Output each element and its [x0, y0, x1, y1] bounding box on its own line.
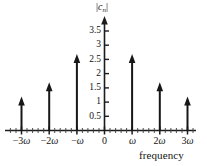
y-tick-label-0-5: 0.5 [76, 112, 101, 122]
y-tick-label-2: 2 [76, 69, 101, 79]
y-tick-label-2-5: 2.5 [76, 55, 101, 65]
stem-plus-3omega [184, 97, 191, 131]
x-tick-label-zero: 0 [89, 136, 120, 146]
x-axis-title: frequency [139, 150, 184, 161]
stem-minus-3omega [18, 97, 25, 131]
y-tick-label-1-5: 1.5 [76, 83, 101, 93]
x-tick-prefix: −2 [41, 135, 52, 146]
y-axis-arrowhead [101, 16, 108, 25]
y-axis-title-n: n [102, 6, 106, 14]
x-tick-symbol: ω [186, 135, 193, 146]
x-tick-label-minus-3omega: −3ω [6, 136, 37, 146]
x-tick-symbol: ω [23, 135, 30, 146]
x-tick-symbol: ω [158, 135, 165, 146]
stem-plus-omega [129, 54, 136, 130]
y-tick-label-3: 3 [76, 40, 101, 50]
x-tick-symbol: ω [129, 135, 136, 146]
x-tick-label-minus-2omega: −2ω [34, 136, 65, 146]
y-tick-label-3-5: 3.5 [76, 26, 101, 36]
x-tick-symbol: ω [51, 135, 58, 146]
y-axis-title: |cn| [96, 2, 108, 12]
x-tick-label-3omega: 3ω [172, 136, 203, 146]
frequency-spectrum-figure: |cn| 3.5 3 2.5 2 1.5 1 0.5 −3ω −2ω −ω 0 … [0, 0, 207, 166]
stem-minus-2omega [46, 82, 53, 130]
x-tick-prefix: −3 [13, 135, 24, 146]
y-tick-label-1: 1 [76, 97, 101, 107]
x-tick-symbol: 0 [102, 135, 107, 146]
x-tick-symbol: ω [77, 135, 84, 146]
y-axis-title-bar-right: | [106, 1, 108, 12]
stem-plus-2omega [157, 82, 164, 130]
x-tick-label-2omega: 2ω [144, 136, 175, 146]
